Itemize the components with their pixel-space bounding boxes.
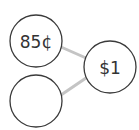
connector-bottom <box>61 78 86 95</box>
connector-top <box>61 47 86 58</box>
number-bond-diagram: 85¢ $1 <box>0 0 139 130</box>
part-circle-bottom[interactable] <box>10 75 62 127</box>
part-top-label: 85¢ <box>20 34 52 51</box>
whole-label: $1 <box>99 60 121 77</box>
